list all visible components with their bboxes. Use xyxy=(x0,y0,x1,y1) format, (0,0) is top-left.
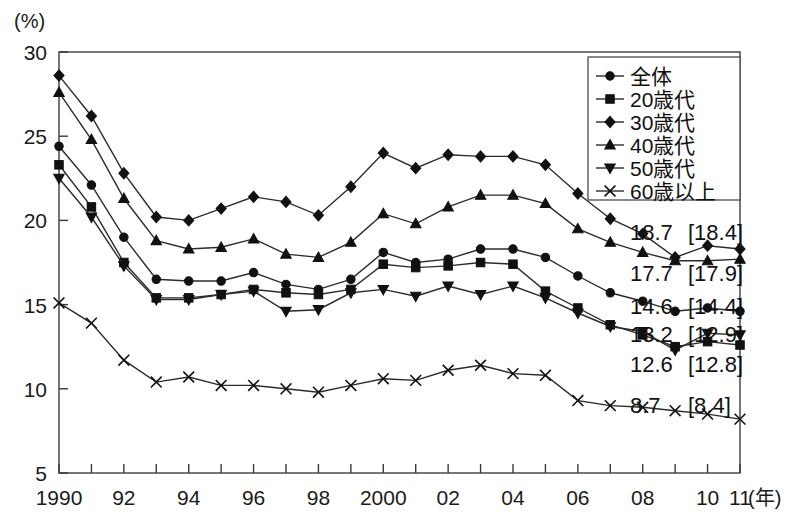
end-label-group: 18.7[18.4] xyxy=(630,220,743,245)
data-point xyxy=(282,280,290,288)
data-point xyxy=(509,260,517,268)
x-axis-tick-label: 92 xyxy=(112,486,135,509)
data-point xyxy=(314,290,322,298)
data-point xyxy=(55,161,63,169)
data-point xyxy=(379,248,387,256)
legend-item-label: 全体 xyxy=(630,65,672,88)
data-point xyxy=(508,151,518,162)
x-axis-tick-label: 06 xyxy=(566,486,589,509)
data-point xyxy=(444,262,452,270)
legend-item-label: 30歳代 xyxy=(630,111,695,134)
end-label-value: 8.7 xyxy=(630,393,661,418)
data-point xyxy=(249,268,257,276)
data-point xyxy=(119,193,129,202)
data-point xyxy=(443,149,453,160)
data-point xyxy=(476,245,484,253)
x-axis-tick-label: 94 xyxy=(177,486,201,509)
data-point xyxy=(606,289,614,297)
end-label-value: 12.6 xyxy=(630,352,673,377)
y-axis-unit-label: (%) xyxy=(14,10,45,32)
end-label-previous: [12.9] xyxy=(688,322,743,347)
end-label-value: 17.7 xyxy=(630,261,673,286)
y-axis-tick-label: 25 xyxy=(24,125,47,148)
y-axis-tick-label: 30 xyxy=(24,41,47,64)
data-point xyxy=(216,203,226,214)
data-point xyxy=(86,134,96,143)
data-point xyxy=(281,196,291,207)
data-point xyxy=(509,245,517,253)
chart-container: 510152025301990929496982000020406081011(… xyxy=(0,0,787,526)
data-point xyxy=(55,142,63,150)
data-point xyxy=(476,151,486,162)
legend-item-label: 40歳代 xyxy=(630,134,695,157)
y-axis-tick-label: 10 xyxy=(24,378,47,401)
data-point xyxy=(605,237,615,246)
data-point xyxy=(573,223,583,232)
x-axis-tick-label: 96 xyxy=(242,486,265,509)
data-point xyxy=(379,260,387,268)
x-axis-tick-label: 1990 xyxy=(36,486,83,509)
x-axis-unit-label: (年) xyxy=(748,487,781,509)
data-point xyxy=(54,87,64,96)
data-point xyxy=(573,309,583,318)
end-label-value: 14.6 xyxy=(630,294,673,319)
legend-item-label: 20歳代 xyxy=(630,88,695,111)
x-axis-tick-label: 2000 xyxy=(360,486,407,509)
data-point xyxy=(347,275,355,283)
end-label-group: 14.6[14.4] xyxy=(630,294,743,319)
data-point xyxy=(541,253,549,261)
end-label-previous: [18.4] xyxy=(688,220,743,245)
line-chart: 510152025301990929496982000020406081011(… xyxy=(0,0,787,526)
data-point xyxy=(152,275,160,283)
data-point xyxy=(86,318,97,329)
end-label-group: 13.2[12.9] xyxy=(630,322,743,347)
data-point xyxy=(281,307,291,316)
data-point xyxy=(120,233,128,241)
data-point xyxy=(248,234,258,243)
y-axis-tick-label: 20 xyxy=(24,209,47,232)
data-point xyxy=(217,277,225,285)
data-point xyxy=(184,215,194,226)
data-point xyxy=(249,191,259,202)
data-point xyxy=(411,292,421,301)
data-point xyxy=(574,272,582,280)
end-label-value: 13.2 xyxy=(630,322,673,347)
x-axis-tick-label: 02 xyxy=(436,486,459,509)
x-axis-tick-label: 98 xyxy=(307,486,330,509)
data-point xyxy=(185,277,193,285)
end-label-previous: [17.9] xyxy=(688,261,743,286)
y-axis-tick-label: 5 xyxy=(35,462,47,485)
legend: 全体20歳代30歳代40歳代50歳代60歳以上 xyxy=(588,57,740,203)
data-point xyxy=(476,258,484,266)
data-point xyxy=(475,290,485,299)
data-point xyxy=(118,355,129,366)
x-axis-tick-label: 10 xyxy=(696,486,719,509)
data-point xyxy=(87,181,95,189)
legend-item-label: 60歳以上 xyxy=(630,180,716,203)
end-label-previous: [14.4] xyxy=(688,294,743,319)
data-point xyxy=(412,263,420,271)
end-label-value: 18.7 xyxy=(630,220,673,245)
data-point xyxy=(86,213,96,222)
data-point xyxy=(605,213,615,224)
end-label-previous: [12.8] xyxy=(688,352,743,377)
y-axis-tick-label: 15 xyxy=(24,294,47,317)
data-point xyxy=(345,380,356,391)
end-label-previous: [8.4] xyxy=(688,393,731,418)
legend-marker-square xyxy=(606,95,614,103)
x-axis-tick-label: 08 xyxy=(631,486,654,509)
data-point xyxy=(378,208,388,217)
data-point xyxy=(411,163,421,174)
legend-marker-circle xyxy=(606,72,614,80)
end-label-group: 17.7[17.9] xyxy=(630,261,743,286)
data-point xyxy=(87,203,95,211)
legend-item-label: 50歳代 xyxy=(630,157,695,180)
end-label-group: 12.6[12.8] xyxy=(630,352,743,377)
data-point xyxy=(281,249,291,258)
data-point xyxy=(540,294,550,303)
x-axis-tick-label: 04 xyxy=(501,486,525,509)
data-point xyxy=(282,289,290,297)
